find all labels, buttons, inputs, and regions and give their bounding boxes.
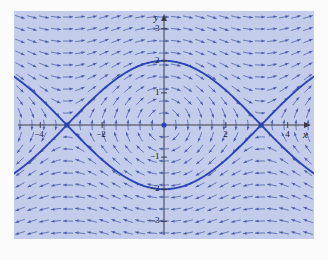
y-tick-label: 1	[155, 88, 160, 97]
x-tick-label: 2	[223, 130, 228, 139]
y-tick-label: 3	[155, 24, 160, 33]
y-tick-label: 2	[155, 56, 160, 65]
x-tick-label: 4	[285, 130, 290, 139]
equilibrium-point-center	[161, 122, 166, 127]
phase-portrait-figure: −4−224321−1−2−3xy	[0, 0, 328, 260]
y-tick-label: −3	[150, 216, 160, 225]
y-tick-label: −2	[150, 184, 160, 193]
plot-area: −4−224321−1−2−3xy	[14, 11, 314, 239]
y-tick-label: −1	[150, 152, 160, 161]
x-tick-label: −2	[96, 130, 106, 139]
equilibrium-point-saddle	[259, 122, 264, 127]
axes-layer	[14, 11, 314, 239]
x-axis-label: x	[303, 130, 307, 140]
x-tick-label: −4	[34, 130, 44, 139]
y-axis-label: y	[154, 13, 158, 23]
equilibrium-point-saddle	[64, 122, 69, 127]
